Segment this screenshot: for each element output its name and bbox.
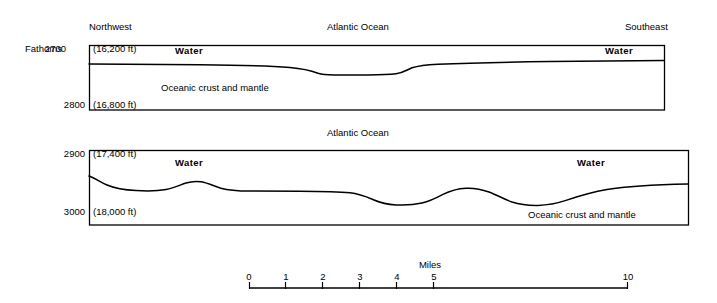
bottom-depth-upper-fathoms: 2900 [64,148,85,159]
top-depth-upper-fathoms: 2700 [45,43,66,54]
top-water-label-left: Water [175,45,203,56]
bottom-crust-label: Oceanic crust and mantle [528,209,636,220]
scale-tick-label-4: 4 [394,271,399,282]
bottom-ocean-label: Atlantic Ocean [327,127,389,138]
scale-bar: Miles 0 1 2 3 4 5 10 [246,259,633,289]
scale-tick-label-5: 5 [431,271,436,282]
scale-unit-label: Miles [419,259,441,270]
scale-tick-label-1: 1 [283,271,288,282]
top-depth-lower-fathoms: 2800 [64,99,85,110]
top-depth-upper-feet: (16,200 ft) [93,43,136,54]
top-water-label-right: Water [605,45,633,56]
top-crust-label: Oceanic crust and mantle [161,82,269,93]
scale-tick-label-3: 3 [357,271,362,282]
scale-tick-label-10: 10 [623,271,634,282]
top-depth-lower-feet: (16,800 ft) [93,99,136,110]
bottom-seafloor-line [89,176,688,205]
bottom-profile-panel: Atlantic Ocean 2900 (17,400 ft) 3000 (18… [64,127,689,225]
bottom-depth-lower-fathoms: 3000 [64,206,85,217]
bottom-water-label-left: Water [175,157,203,168]
bottom-depth-lower-feet: (18,000 ft) [93,206,136,217]
top-profile-panel: Northwest Atlantic Ocean Southeast Fatho… [25,21,668,110]
top-seafloor-line [89,61,664,75]
scale-tick-label-0: 0 [246,271,251,282]
seafloor-profile-figure: Northwest Atlantic Ocean Southeast Fatho… [0,0,717,303]
bottom-water-label-right: Water [577,157,605,168]
top-ocean-label: Atlantic Ocean [327,21,389,32]
top-left-direction-label: Northwest [89,21,132,32]
top-right-direction-label: Southeast [625,21,668,32]
scale-tick-label-2: 2 [320,271,325,282]
bottom-depth-upper-feet: (17,400 ft) [93,148,136,159]
